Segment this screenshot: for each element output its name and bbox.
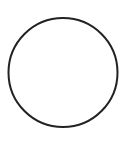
canvas (0, 0, 126, 142)
circle-outline-icon (0, 0, 126, 142)
circle-shape (9, 18, 118, 127)
